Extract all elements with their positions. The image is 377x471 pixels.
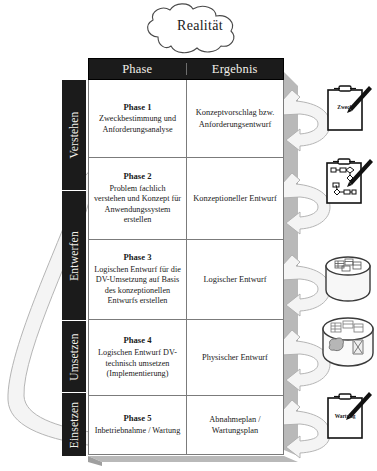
clipboard-flowchart-icon (324, 157, 374, 209)
column-header-phase: Phase (89, 63, 187, 76)
phase-title-5: Phase 5 (124, 413, 152, 425)
phase-title-4: Phase 4 (124, 335, 152, 347)
result-text-2: Konzeptioneller Entwurf (193, 193, 277, 204)
stage-entwerfen[interactable]: Entwerfen (62, 190, 86, 320)
phase-cell-3: Phase 3 Logischen Entwurf für die DV-Ums… (89, 240, 187, 319)
phase-desc-4: Logischen Entwurf DV-technisch umsetzen … (93, 348, 182, 380)
database-schema-icon (320, 252, 374, 306)
artifact-icon-1[interactable]: Zweck (325, 84, 373, 134)
stage-verstehen[interactable]: Verstehen (62, 80, 86, 190)
result-cell-5: Abnahmeplan / Wartungsplan (187, 396, 283, 454)
phase-cell-5: Phase 5 Inbetriebnahme / Wartung (89, 396, 187, 454)
reality-cloud-label: Realität (150, 18, 250, 34)
artifact-icon-4[interactable] (318, 313, 376, 371)
diagram-canvas: Realität Verstehen Entwerfen Umsetzen Ei… (0, 0, 377, 471)
stage-umsetzen-label: Umsetzen (68, 333, 80, 381)
result-cell-4: Physischer Entwurf (187, 320, 283, 395)
result-cell-1: Konzeptvorschlag bzw. Anforderungsentwur… (187, 80, 283, 157)
table-row[interactable]: Phase 5 Inbetriebnahme / Wartung Abnahme… (89, 396, 283, 454)
table-shadow-bottom (88, 456, 298, 462)
phase-cell-4: Phase 4 Logischen Entwurf DV-technisch u… (89, 320, 187, 395)
phase-cell-1: Phase 1 Zweckbestimmung und Anforderungs… (89, 80, 187, 157)
result-text-4: Physischer Entwurf (202, 352, 268, 363)
table-header-row: Phase Ergebnis (88, 58, 284, 80)
phase-title-2: Phase 2 (124, 171, 152, 183)
database-physical-icon (318, 313, 376, 371)
stage-bar: Verstehen Entwerfen Umsetzen Einsetzen (62, 80, 86, 456)
phase-desc-2: Problem fachlich verstehen und Konzept f… (93, 184, 182, 226)
artifact-icon-5[interactable]: Wartung (325, 392, 373, 442)
result-cell-2: Konzeptioneller Entwurf (187, 158, 283, 239)
stage-entwerfen-label: Entwerfen (68, 231, 80, 281)
result-text-3: Logischer Entwurf (203, 274, 266, 285)
result-text-5: Abnahmeplan / Wartungsplan (191, 414, 279, 436)
table-row[interactable]: Phase 2 Problem fachlich verstehen und K… (89, 158, 283, 240)
stage-verstehen-label: Verstehen (68, 111, 80, 158)
phase-title-1: Phase 1 (124, 102, 152, 114)
result-cell-3: Logischer Entwurf (187, 240, 283, 319)
column-header-ergebnis: Ergebnis (187, 63, 284, 76)
table-body: Phase 1 Zweckbestimmung und Anforderungs… (88, 80, 284, 455)
stage-einsetzen[interactable]: Einsetzen (62, 392, 86, 456)
clipboard-pen-icon: Zweck (325, 84, 373, 134)
result-text-1: Konzeptvorschlag bzw. Anforderungsentwur… (191, 107, 279, 129)
stage-umsetzen[interactable]: Umsetzen (62, 320, 86, 392)
phase-desc-1: Zweckbestimmung und Anforderungsanalyse (93, 114, 182, 135)
table-row[interactable]: Phase 4 Logischen Entwurf DV-technisch u… (89, 320, 283, 396)
clipboard-pen-icon: Wartung (325, 392, 373, 442)
table-row[interactable]: Phase 3 Logischen Entwurf für die DV-Ums… (89, 240, 283, 320)
phase-desc-5: Inbetriebnahme / Wartung (95, 426, 181, 437)
table-row[interactable]: Phase 1 Zweckbestimmung und Anforderungs… (89, 80, 283, 158)
phase-desc-3: Logischen Entwurf für die DV-Umsetzung a… (93, 265, 182, 307)
phase-title-3: Phase 3 (124, 252, 152, 264)
phase-result-table: Phase Ergebnis Phase 1 Zweckbestimmung u… (88, 58, 284, 455)
artifact-icon-3[interactable] (320, 252, 374, 306)
stage-einsetzen-label: Einsetzen (68, 401, 80, 448)
artifact-icon-2[interactable] (324, 157, 374, 209)
phase-cell-2: Phase 2 Problem fachlich verstehen und K… (89, 158, 187, 239)
